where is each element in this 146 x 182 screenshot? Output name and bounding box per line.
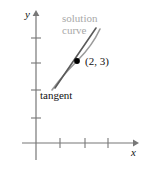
point-coordinate-label: (2, 3): [85, 56, 109, 68]
solution-curve-label-line2: curve: [62, 25, 97, 37]
y-axis-arrow-icon: [33, 10, 40, 16]
y-axis-label: y: [25, 9, 30, 21]
tangency-point-marker: [74, 58, 80, 64]
solution-curve-label-line1: solution: [62, 13, 97, 25]
x-axis-label: x: [131, 147, 136, 159]
differential-equation-figure: solution curve (2, 3) tangent x y: [0, 0, 146, 182]
tangent-label: tangent: [40, 90, 72, 102]
solution-curve-label: solution curve: [62, 13, 97, 36]
